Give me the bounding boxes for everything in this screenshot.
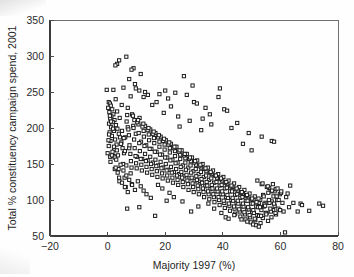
data-point-marker — [155, 165, 158, 168]
data-point-marker — [210, 183, 213, 186]
data-point-marker — [129, 160, 132, 163]
data-point-marker — [206, 184, 209, 187]
data-point-marker — [248, 214, 251, 217]
data-point-marker — [111, 127, 114, 130]
data-point-marker — [120, 103, 123, 106]
data-point-marker — [267, 191, 270, 194]
data-point-marker — [160, 172, 163, 175]
data-point-marker — [162, 111, 165, 114]
data-point-marker — [130, 166, 133, 169]
y-axis-title: Total % constituency campaign spend, 200… — [6, 25, 18, 230]
data-point-marker — [175, 167, 178, 170]
data-point-marker — [292, 201, 295, 204]
data-point-marker — [185, 93, 188, 96]
data-point-marker — [256, 179, 259, 182]
data-point-marker — [138, 149, 141, 152]
data-point-marker — [200, 178, 203, 181]
data-point-marker — [143, 152, 146, 155]
data-point-marker — [113, 138, 116, 141]
data-point-marker — [134, 87, 137, 90]
x-tick-label: 60 — [275, 240, 287, 252]
data-point-marker — [296, 210, 299, 213]
data-point-marker — [266, 185, 269, 188]
data-point-marker — [215, 187, 218, 190]
data-point-marker — [189, 164, 192, 167]
data-point-marker — [186, 183, 189, 186]
data-point-marker — [162, 137, 165, 140]
data-point-marker — [181, 180, 184, 183]
data-point-marker — [258, 206, 261, 209]
data-point-marker — [164, 89, 167, 92]
data-point-marker — [243, 211, 246, 214]
data-point-marker — [107, 106, 110, 109]
data-point-marker — [272, 140, 275, 143]
data-point-marker — [161, 187, 164, 190]
data-point-marker — [221, 190, 224, 193]
x-axis-title: Majority 1997 (%) — [153, 259, 235, 271]
data-point-marker — [180, 170, 183, 173]
data-point-marker — [228, 209, 231, 212]
data-point-marker — [264, 204, 267, 207]
data-point-marker — [138, 89, 141, 92]
data-point-marker — [129, 152, 132, 155]
data-point-marker — [223, 206, 226, 209]
data-point-marker — [129, 95, 132, 98]
data-point-marker — [111, 150, 114, 153]
data-point-marker — [122, 136, 125, 139]
data-point-marker — [260, 214, 263, 217]
data-point-marker — [219, 177, 222, 180]
data-point-marker — [179, 165, 182, 168]
data-point-marker — [168, 147, 171, 150]
data-point-marker — [267, 198, 270, 201]
data-point-marker — [142, 95, 145, 98]
data-point-marker — [151, 173, 154, 176]
data-point-marker — [211, 187, 214, 190]
data-point-marker — [126, 190, 129, 193]
data-point-marker — [250, 149, 253, 152]
data-point-marker — [138, 206, 141, 209]
data-point-marker — [200, 129, 203, 132]
data-point-marker — [137, 118, 140, 121]
data-point-marker — [149, 162, 152, 165]
data-point-marker — [107, 144, 110, 147]
data-point-marker — [147, 126, 150, 129]
data-point-marker — [194, 160, 197, 163]
data-point-marker — [144, 160, 147, 163]
data-point-marker — [270, 189, 273, 192]
data-point-marker — [227, 202, 230, 205]
data-point-marker — [174, 91, 177, 94]
data-point-marker — [246, 199, 249, 202]
data-point-marker — [120, 129, 123, 132]
data-point-marker — [170, 171, 173, 174]
data-point-marker — [168, 191, 171, 194]
data-point-marker — [125, 164, 128, 167]
data-point-marker — [168, 141, 171, 144]
data-point-marker — [282, 210, 285, 213]
data-point-marker — [169, 165, 172, 168]
data-point-marker — [205, 174, 208, 177]
x-tick-label: 40 — [217, 240, 229, 252]
data-point-marker — [236, 121, 239, 124]
y-tick-label: 350 — [26, 14, 44, 26]
data-point-marker — [153, 142, 156, 145]
data-point-marker — [125, 174, 128, 177]
scatter-plot-figure: −20020406080 50100150200250300350 Majori… — [0, 0, 354, 277]
data-point-marker — [120, 181, 123, 184]
data-point-marker — [213, 201, 216, 204]
y-tick-label: 50 — [32, 230, 44, 242]
data-point-marker — [115, 149, 118, 152]
data-point-marker — [156, 175, 159, 178]
data-point-marker — [143, 90, 146, 93]
data-point-marker — [158, 153, 161, 156]
data-point-marker — [161, 177, 164, 180]
data-point-marker — [147, 139, 150, 142]
data-point-marker — [182, 75, 185, 78]
data-point-marker — [201, 117, 204, 120]
data-point-marker — [108, 111, 111, 114]
data-point-marker — [200, 181, 203, 184]
data-point-marker — [127, 134, 130, 137]
data-point-marker — [197, 188, 200, 191]
data-point-marker — [192, 190, 195, 193]
data-point-marker — [271, 183, 274, 186]
data-point-marker — [137, 131, 140, 134]
